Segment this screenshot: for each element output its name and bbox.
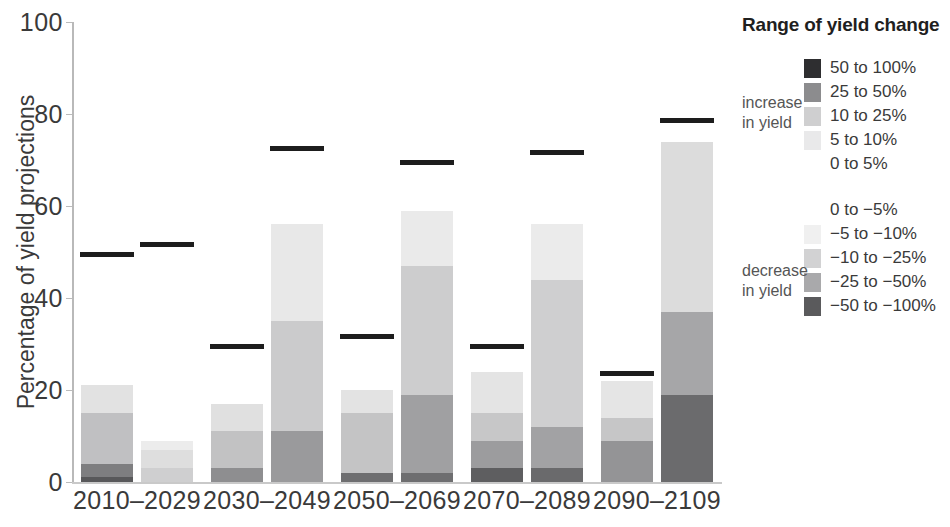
x-axis-group-label: 2050–2069 [333, 486, 461, 515]
bar-segment [531, 468, 583, 482]
stacked-bar [531, 22, 583, 482]
legend-swatch-icon [804, 225, 821, 244]
bar-segment [141, 441, 193, 450]
legend-item[interactable]: 0 to 5% [804, 152, 950, 176]
legend-item[interactable]: 50 to 100% [804, 56, 950, 80]
bar-segment [601, 441, 653, 482]
y-axis-tick-label: 100 [20, 8, 63, 37]
legend-swatch-icon [804, 59, 821, 78]
legend-item[interactable]: −50 to −100% [804, 294, 950, 318]
y-axis-tick-mark [66, 482, 72, 483]
legend-item[interactable]: −10 to −25% [804, 246, 950, 270]
legend-item-label: −50 to −100% [830, 296, 936, 316]
legend-body: increasein yield 50 to 100%25 to 50%10 t… [742, 56, 950, 318]
bar-segment [601, 418, 653, 441]
bar-segment [401, 395, 453, 473]
legend: Range of yield change increasein yield 5… [742, 14, 950, 318]
stacked-bar [471, 22, 523, 482]
bar-segment [531, 280, 583, 427]
stacked-bar [341, 22, 393, 482]
plot-area: Percentage of yield projections 02040608… [72, 22, 722, 482]
bar-segment [661, 312, 713, 395]
stacked-bar [81, 22, 133, 482]
legend-item-label: −5 to −10% [830, 224, 917, 244]
legend-group-label-line: decrease [742, 261, 802, 281]
x-axis-line [72, 482, 722, 484]
bar-segment [341, 473, 393, 482]
bar-segment [271, 224, 323, 321]
legend-item-label: −10 to −25% [830, 248, 926, 268]
bar-segment [531, 224, 583, 279]
legend-item[interactable]: 5 to 10% [804, 128, 950, 152]
stacked-bar [601, 22, 653, 482]
legend-item-label: 5 to 10% [830, 130, 897, 150]
legend-item[interactable]: −5 to −10% [804, 222, 950, 246]
bar-total-marker [600, 371, 654, 376]
y-axis-tick-label: 40 [34, 284, 63, 313]
stacked-bar [401, 22, 453, 482]
bar-segment [401, 266, 453, 395]
bar-segment [141, 468, 193, 482]
bar-segment [471, 468, 523, 482]
legend-group-label-line: in yield [742, 281, 802, 301]
legend-item-label: 50 to 100% [830, 58, 916, 78]
legend-group-label-line: in yield [742, 113, 802, 133]
bar-total-marker [80, 252, 134, 257]
bar-segment [81, 477, 133, 482]
bar-segment [661, 142, 713, 312]
stacked-bar [271, 22, 323, 482]
legend-item[interactable]: 10 to 25% [804, 104, 950, 128]
legend-swatch-icon [804, 131, 821, 150]
bar-segment [271, 321, 323, 431]
x-axis-group-label: 2010–2029 [73, 486, 201, 515]
legend-item-label: 0 to 5% [830, 154, 888, 174]
bar-total-marker [210, 344, 264, 349]
legend-swatch-icon [804, 297, 821, 316]
bar-group: 2070–2089 [462, 22, 592, 482]
y-axis-tick-label: 60 [34, 192, 63, 221]
x-axis-group-label: 2090–2109 [593, 486, 721, 515]
bar-segment [341, 390, 393, 413]
bar-segment [211, 468, 263, 482]
legend-title: Range of yield change [742, 14, 950, 36]
legend-group-label-increase: increasein yield [742, 93, 802, 133]
legend-item-label: 0 to −5% [830, 200, 898, 220]
bar-segment [661, 395, 713, 482]
legend-item-label: 25 to 50% [830, 82, 907, 102]
y-axis-tick-label: 0 [49, 468, 63, 497]
bar-total-marker [470, 344, 524, 349]
bar-segment [531, 427, 583, 468]
bar-group: 2030–2049 [202, 22, 332, 482]
bar-segment [141, 450, 193, 468]
stacked-bar [141, 22, 193, 482]
yield-change-stacked-bar-chart: Percentage of yield projections 02040608… [0, 0, 950, 527]
legend-swatch-icon [804, 107, 821, 126]
legend-swatch-icon [804, 201, 821, 220]
bar-group: 2010–2029 [72, 22, 202, 482]
bar-total-marker [140, 242, 194, 247]
bar-segment [471, 372, 523, 413]
bar-segment [81, 464, 133, 478]
legend-item[interactable]: −25 to −50% [804, 270, 950, 294]
legend-swatch-icon [804, 83, 821, 102]
x-axis-group-label: 2030–2049 [203, 486, 331, 515]
legend-item-label: −25 to −50% [830, 272, 926, 292]
bar-segment [601, 381, 653, 418]
bar-segment [271, 431, 323, 482]
bar-segment [211, 404, 263, 432]
y-axis-tick-label: 80 [34, 100, 63, 129]
bar-segment [81, 413, 133, 464]
bar-total-marker [270, 146, 324, 151]
legend-group-label-line: increase [742, 93, 802, 113]
bar-group: 2050–2069 [332, 22, 462, 482]
stacked-bar [211, 22, 263, 482]
legend-item[interactable]: 0 to −5% [804, 198, 950, 222]
bar-segment [401, 211, 453, 266]
bar-total-marker [530, 150, 584, 155]
bar-group: 2090–2109 [592, 22, 722, 482]
legend-spacer [742, 176, 950, 198]
legend-group-label-decrease: decreasein yield [742, 261, 802, 301]
bar-total-marker [340, 334, 394, 339]
legend-swatch-icon [804, 155, 821, 174]
legend-item[interactable]: 25 to 50% [804, 80, 950, 104]
